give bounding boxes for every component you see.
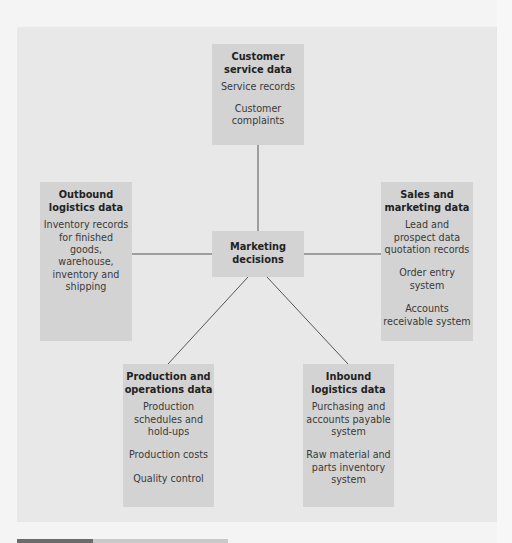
node-item: Production schedules and hold-ups — [123, 401, 214, 438]
node-item: Order entry system — [381, 267, 473, 292]
node-item: Customer complaints — [212, 103, 304, 128]
node-title: Inbound logistics data — [303, 371, 394, 396]
node-item: Production costs — [123, 449, 214, 461]
node-item: Service records — [212, 81, 304, 93]
node-title: Production and operations data — [123, 371, 214, 396]
page: Customer service data Service records Cu… — [0, 0, 512, 543]
node-customer-service-data: Customer service data Service records Cu… — [212, 44, 304, 145]
bottom-bar-light — [93, 539, 228, 543]
node-sales-marketing-data: Sales and marketing data Lead and prospe… — [381, 182, 473, 341]
node-item: Accounts receivable system — [381, 303, 473, 328]
node-item: Lead and prospect data quotation records — [381, 219, 473, 256]
bottom-bar-dark — [17, 539, 93, 543]
node-title: Sales and marketing data — [381, 189, 473, 214]
node-outbound-logistics-data: Outbound logistics data Inventory record… — [40, 182, 132, 341]
connector-production-operations — [168, 277, 248, 364]
node-inbound-logistics-data: Inbound logistics data Purchasing and ac… — [303, 364, 394, 507]
node-item: Quality control — [123, 473, 214, 485]
node-item: Raw material and parts inventory system — [303, 449, 394, 486]
node-item: Inventory records for finished goods, wa… — [40, 219, 132, 293]
node-item: Purchasing and accounts payable system — [303, 401, 394, 438]
node-production-operations-data: Production and operations data Productio… — [123, 364, 214, 507]
node-title: Customer service data — [212, 51, 304, 76]
node-marketing-decisions: Marketing decisions — [212, 231, 304, 277]
center-title: Marketing decisions — [230, 241, 286, 266]
connector-inbound-logistics — [267, 277, 348, 364]
node-title: Outbound logistics data — [40, 189, 132, 214]
